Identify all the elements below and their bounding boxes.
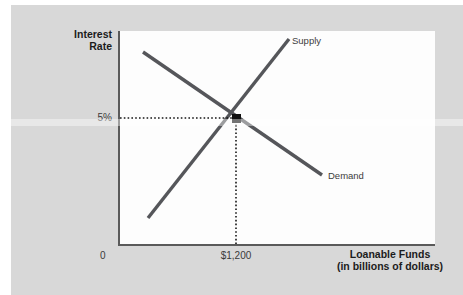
demand-curve-label: Demand (328, 170, 364, 181)
supply-curve (148, 39, 289, 218)
x-axis-label-line1: Loanable Funds (350, 248, 431, 260)
figure-screenshot: Interest Rate Loanable Funds (in billion… (0, 0, 463, 295)
supply-curve-label: Supply (292, 35, 321, 46)
origin-tick-label: 0 (100, 250, 106, 262)
y-axis-label: Interest Rate (52, 28, 112, 53)
x-axis-label-line2: (in billions of dollars) (337, 260, 443, 272)
x-axis-label: Loanable Funds (in billions of dollars) (320, 248, 460, 273)
y-tick-label-5pct: 5% (84, 112, 112, 124)
y-axis-label-line1: Interest (74, 28, 112, 40)
y-axis-label-line2: Rate (89, 40, 112, 52)
demand-curve (143, 52, 322, 175)
x-tick-label-1200: $1,200 (206, 250, 266, 262)
equilibrium-point-marker (232, 114, 241, 123)
